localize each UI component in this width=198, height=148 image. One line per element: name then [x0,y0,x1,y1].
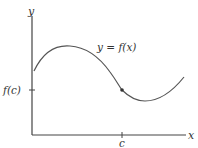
function-curve [34,46,184,101]
curve-label: y = f(x) [96,41,136,53]
function-graph: y x f(c) c y = f(x) [0,0,198,148]
point-c-fc [120,88,124,92]
y-axis-label: y [27,5,35,18]
fc-label: f(c) [2,84,21,96]
x-axis-label: x [188,129,195,142]
c-label: c [119,137,125,148]
